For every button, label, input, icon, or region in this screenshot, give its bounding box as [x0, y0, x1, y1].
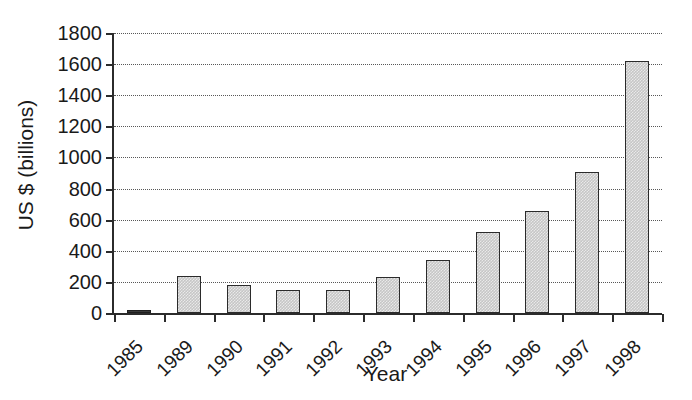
plot-area [112, 33, 662, 315]
gridline [114, 33, 662, 34]
bar [625, 61, 649, 313]
y-axis-tick-label: 600 [69, 210, 102, 230]
bar [476, 232, 500, 313]
y-axis-tick-labels: 020040060080010001200140016001800 [46, 0, 108, 400]
y-axis-title-container: US $ (billions) [0, 0, 52, 330]
gridline [114, 157, 662, 158]
bar-chart-figure: US $ (billions) 020040060080010001200140… [0, 0, 692, 400]
y-axis-tick-mark [106, 157, 114, 159]
y-axis-tick-label: 1600 [58, 54, 103, 74]
bar [426, 260, 450, 313]
gridline [114, 126, 662, 127]
y-axis-tick-mark [106, 251, 114, 253]
bar [376, 277, 400, 313]
y-axis-tick-label: 200 [69, 272, 102, 292]
x-axis-title: Year [112, 362, 660, 386]
y-axis-tick-label: 800 [69, 179, 102, 199]
y-axis-tick-label: 1000 [58, 147, 103, 167]
y-axis-tick-mark [106, 189, 114, 191]
y-axis-tick-label: 1200 [58, 116, 103, 136]
y-axis-title: US $ (billions) [14, 100, 38, 231]
y-axis-tick-label: 1800 [58, 23, 103, 43]
bar [575, 172, 599, 313]
x-axis-tick-mark [662, 314, 664, 322]
gridline [114, 64, 662, 65]
y-axis-tick-mark [106, 220, 114, 222]
bar [525, 211, 549, 313]
y-axis-tick-label: 0 [91, 303, 102, 323]
y-axis-tick-label: 400 [69, 241, 102, 261]
gridline [114, 95, 662, 96]
y-axis-tick-mark [106, 95, 114, 97]
bar [177, 276, 201, 313]
bar [326, 290, 350, 313]
y-axis-tick-mark [106, 64, 114, 66]
y-axis-tick-mark [106, 33, 114, 35]
bar [127, 310, 151, 313]
y-axis-tick-label: 1400 [58, 85, 103, 105]
bar [227, 285, 251, 313]
bar [276, 290, 300, 313]
y-axis-tick-mark [106, 126, 114, 128]
y-axis-tick-mark [106, 282, 114, 284]
